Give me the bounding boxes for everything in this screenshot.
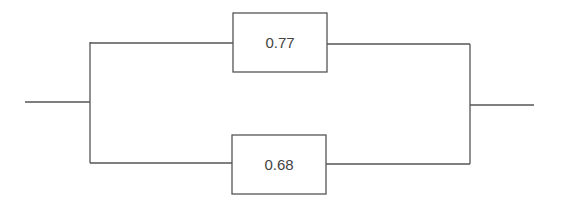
top-block-label: 0.77 — [265, 34, 294, 51]
bottom-block-label: 0.68 — [264, 156, 293, 173]
reliability-diagram: 0.77 0.68 — [0, 0, 565, 210]
bottom-block: 0.68 — [232, 135, 326, 194]
top-block: 0.77 — [233, 13, 327, 72]
